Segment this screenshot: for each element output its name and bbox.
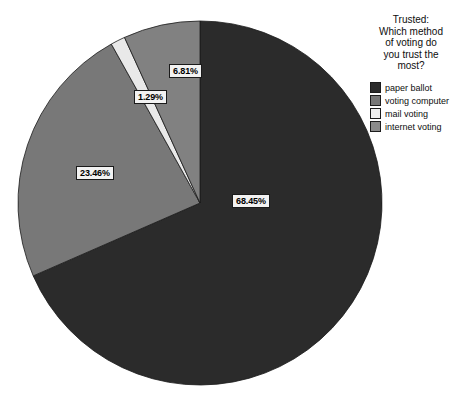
pie-chart-figure: 68.45% 23.46% 1.29% 6.81% Trusted: Which… — [0, 0, 472, 403]
legend-item-voting-computer[interactable]: voting computer — [370, 95, 470, 107]
legend-item-mail-voting[interactable]: mail voting — [370, 108, 470, 120]
legend-item-label: mail voting — [385, 109, 428, 119]
pie-svg — [0, 0, 400, 403]
legend-item-internet-voting[interactable]: internet voting — [370, 121, 470, 133]
legend-swatch-icon — [370, 82, 381, 93]
pie-plot-area: 68.45% 23.46% 1.29% 6.81% — [0, 0, 400, 403]
legend-swatch-icon — [370, 108, 381, 119]
data-label-internet-voting: 6.81% — [169, 64, 202, 78]
legend-item-paper-ballot[interactable]: paper ballot — [370, 82, 470, 94]
legend-title-line: Which method — [354, 26, 468, 38]
legend-item-label: paper ballot — [385, 83, 432, 93]
legend-title-line: you trust the — [354, 49, 468, 61]
legend-swatch-icon — [370, 121, 381, 132]
legend-item-label: internet voting — [385, 122, 442, 132]
legend-swatch-icon — [370, 95, 381, 106]
data-label-voting-computer: 23.46% — [76, 166, 114, 180]
legend: Trusted: Which method of voting do you t… — [352, 14, 470, 134]
legend-items-list: paper ballot voting computer mail voting… — [352, 82, 470, 133]
legend-title-line: of voting do — [354, 37, 468, 49]
data-label-mail-voting: 1.29% — [134, 90, 167, 104]
legend-title-line: most? — [354, 60, 468, 72]
data-label-paper-ballot: 68.45% — [232, 194, 270, 208]
legend-title: Trusted: Which method of voting do you t… — [352, 14, 470, 72]
legend-item-label: voting computer — [385, 96, 449, 106]
legend-title-line: Trusted: — [354, 14, 468, 26]
